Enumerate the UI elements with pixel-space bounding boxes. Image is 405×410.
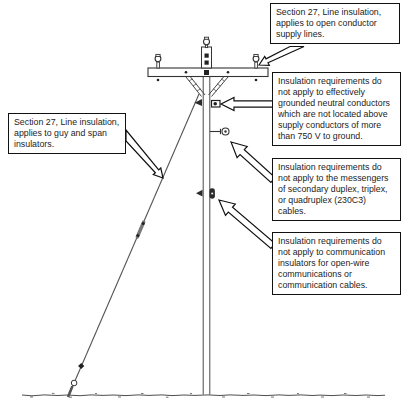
callout-guy-span: Section 27, Line insulation, applies to … bbox=[8, 113, 126, 154]
arrow-communication bbox=[219, 200, 275, 248]
brace-bolt-left-icon bbox=[185, 71, 188, 74]
arm-underbolt-right-icon bbox=[255, 79, 258, 82]
pole-fixtures bbox=[196, 101, 229, 199]
callout-guy-span-text: Section 27, Line insulation, applies to … bbox=[14, 117, 120, 150]
utility-pole bbox=[203, 77, 210, 395]
anchor-eye-icon bbox=[71, 380, 77, 386]
callout-messengers: Insulation requirements do not apply to … bbox=[272, 158, 401, 221]
guy-bolt-icon bbox=[78, 363, 84, 369]
callout-open-conductor-text: Section 27, Line insulation, applies to … bbox=[276, 7, 394, 40]
communication-bracket-left-icon bbox=[196, 190, 203, 197]
brace-bolt-right-icon bbox=[227, 71, 230, 74]
callout-messengers-text: Insulation requirements do not apply to … bbox=[278, 162, 395, 217]
arrow-guy-span bbox=[126, 130, 163, 178]
crossarm-brace-left bbox=[186, 77, 202, 97]
crossarm-brace-right bbox=[212, 77, 229, 97]
guy-clamp-icon bbox=[195, 99, 203, 106]
pole-top-pin-insulator-icon bbox=[204, 39, 210, 45]
callout-neutral-text: Insulation requirements do not apply to … bbox=[278, 76, 395, 142]
crossarm-center-bolt-icon bbox=[204, 70, 209, 75]
arrow-neutral bbox=[221, 98, 274, 111]
callout-communication: Insulation requirements do not apply to … bbox=[272, 232, 401, 295]
arrow-messengers bbox=[231, 142, 275, 182]
callout-open-conductor: Section 27, Line insulation, applies to … bbox=[270, 3, 400, 44]
arrow-open-conductor bbox=[259, 47, 304, 66]
figure-canvas: Section 27, Line insulation, applies to … bbox=[0, 0, 405, 410]
callout-neutral: Insulation requirements do not apply to … bbox=[272, 72, 401, 146]
callout-communication-text: Insulation requirements do not apply to … bbox=[278, 236, 395, 291]
arm-underbolt-left-icon bbox=[157, 79, 160, 82]
pole-top bbox=[155, 37, 259, 68]
crossarm-assembly bbox=[148, 68, 268, 97]
